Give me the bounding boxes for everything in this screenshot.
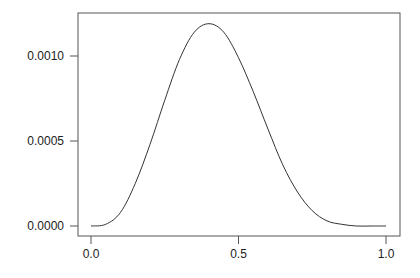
y-tick-label: 0.0000 (27, 219, 64, 233)
y-axis: 0.0000 0.0005 0.0010 (27, 49, 78, 233)
x-tick-label: 1.0 (378, 247, 395, 261)
x-axis: 0.0 0.5 1.0 (83, 236, 395, 261)
chart: 0.0000 0.0005 0.0010 0.0 0.5 1.0 (0, 0, 420, 278)
y-tick-label: 0.0005 (27, 134, 64, 148)
x-tick-label: 0.5 (230, 247, 247, 261)
x-tick-label: 0.0 (83, 247, 100, 261)
density-curve (91, 24, 386, 226)
y-tick-label: 0.0010 (27, 49, 64, 63)
